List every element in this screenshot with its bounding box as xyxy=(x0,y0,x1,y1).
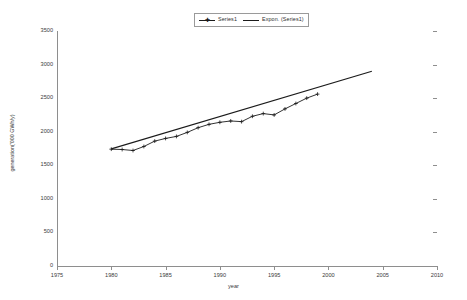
x-axis-line xyxy=(57,266,438,267)
x-axis-tick-label: 2000 xyxy=(313,273,343,279)
y-axis-tick-label: 3500 xyxy=(23,28,53,34)
x-axis-tick-label: 1990 xyxy=(205,273,235,279)
legend-line-icon xyxy=(243,17,259,24)
x-axis-tick xyxy=(383,266,384,270)
x-axis-tick-label: 1980 xyxy=(96,273,126,279)
legend-entry-trendline: Expon. (Series1) xyxy=(243,17,304,24)
x-axis-tick xyxy=(220,266,221,270)
y-axis-tick xyxy=(433,199,437,200)
plot-area: 0500100015002000250030003500197519801985… xyxy=(57,31,437,266)
x-axis-tick xyxy=(437,266,438,270)
x-axis-tick xyxy=(111,266,112,270)
y-axis-tick-label: 2500 xyxy=(23,95,53,101)
x-axis-tick-label: 1975 xyxy=(42,273,72,279)
y-axis-tick xyxy=(433,31,437,32)
legend-label-trendline: Expon. (Series1) xyxy=(262,17,304,22)
x-axis-tick xyxy=(274,266,275,270)
y-axis-tick xyxy=(433,132,437,133)
y-axis-tick-label: 0 xyxy=(23,263,53,269)
x-axis-title: year xyxy=(0,283,467,289)
x-axis-tick xyxy=(57,266,58,270)
legend-label-series1: Series1 xyxy=(218,17,237,22)
legend-entry-series1: ✚ Series1 xyxy=(199,17,237,24)
legend-marker-cross-icon: ✚ xyxy=(199,17,215,24)
y-axis-tick-label: 1500 xyxy=(23,162,53,168)
x-axis-tick-label: 1985 xyxy=(151,273,181,279)
y-axis-title: generation('000 GWh/y) xyxy=(9,93,15,193)
x-axis-tick xyxy=(166,266,167,270)
y-axis-tick xyxy=(433,98,437,99)
chart-legend: ✚ Series1 Expon. (Series1) xyxy=(194,13,309,27)
y-axis-tick-label: 500 xyxy=(23,229,53,235)
y-axis-tick xyxy=(433,65,437,66)
chart-container: ✚ Series1 Expon. (Series1) 0500100015002… xyxy=(0,0,467,300)
y-axis-tick-label: 3000 xyxy=(23,62,53,68)
y-axis-tick xyxy=(433,165,437,166)
y-axis-tick-label: 1000 xyxy=(23,196,53,202)
x-axis-tick-label: 1995 xyxy=(259,273,289,279)
x-axis-tick xyxy=(328,266,329,270)
x-axis-tick-label: 2005 xyxy=(368,273,398,279)
y-axis-tick xyxy=(433,232,437,233)
y-axis-tick-label: 2000 xyxy=(23,129,53,135)
x-axis-tick-label: 2010 xyxy=(422,273,452,279)
